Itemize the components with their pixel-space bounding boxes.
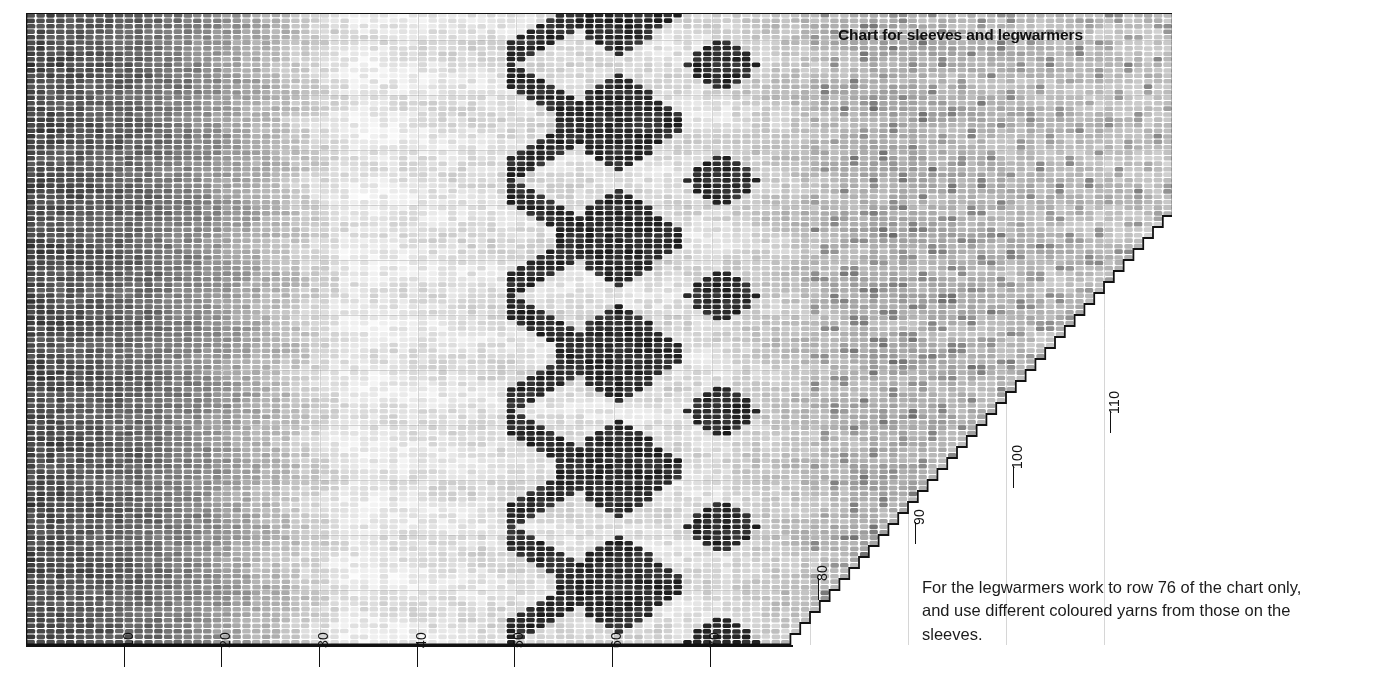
x-tick-label-30: 30 (315, 632, 331, 648)
x-tick-label-10: 10 (120, 632, 136, 648)
x-tick-60 (612, 645, 613, 667)
x-tick-label-60: 60 (608, 632, 624, 648)
x-tick-label-20: 20 (217, 632, 233, 648)
x-tick-20 (221, 645, 222, 667)
x-axis-line (26, 645, 793, 647)
x-tick-label-50: 50 (510, 632, 526, 648)
x-tick-label-70: 70 (706, 632, 722, 648)
step-tick-label-90: 90 (911, 509, 927, 525)
step-tick-label-100: 100 (1009, 445, 1025, 469)
step-tick-90 (915, 522, 916, 544)
x-tick-70 (710, 645, 711, 667)
stitch-grid (26, 13, 1172, 645)
x-tick-10 (124, 645, 125, 667)
x-tick-50 (514, 645, 515, 667)
x-tick-30 (319, 645, 320, 667)
step-tick-label-80: 80 (814, 565, 830, 581)
step-tick-label-110: 110 (1106, 391, 1122, 414)
chart-caption: For the legwarmers work to row 76 of the… (922, 576, 1322, 646)
step-tick-110 (1110, 411, 1111, 433)
page-title: Chart for sleeves and legwarmers (838, 26, 1083, 44)
step-tick-100 (1013, 466, 1014, 488)
chart-page: 10203040506070 8090100110 Chart for slee… (0, 0, 1385, 679)
x-tick-40 (417, 645, 418, 667)
step-tick-80 (818, 578, 819, 600)
x-tick-label-40: 40 (413, 632, 429, 648)
